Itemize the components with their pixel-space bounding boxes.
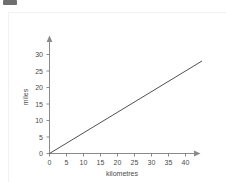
x-tick-label: 5 xyxy=(65,159,69,166)
y-tick-label: 25 xyxy=(35,68,43,75)
y-tick-label: 0 xyxy=(39,150,43,157)
y-tick-label: 30 xyxy=(35,51,43,58)
x-tick-label: 15 xyxy=(97,159,105,166)
conversion-graph: 0 5 10 15 20 25 30 0 5 10 15 20 25 30 35… xyxy=(0,0,226,182)
y-axis-title: miles xyxy=(22,88,29,105)
x-tick-label: 20 xyxy=(114,159,122,166)
y-tick-label: 10 xyxy=(35,117,43,124)
y-tick-label: 15 xyxy=(35,101,43,108)
x-tick-label: 30 xyxy=(148,159,156,166)
x-tick-labels: 0 5 10 15 20 25 30 35 40 xyxy=(48,159,190,166)
y-axis xyxy=(47,36,53,154)
y-tick-labels: 0 5 10 15 20 25 30 xyxy=(35,51,43,157)
screenshot-root: 0 5 10 15 20 25 30 0 5 10 15 20 25 30 35… xyxy=(0,0,226,182)
x-tick-label: 40 xyxy=(182,159,190,166)
x-tick-label: 0 xyxy=(48,159,52,166)
x-axis xyxy=(50,151,201,157)
y-tick-label: 5 xyxy=(39,134,43,141)
y-tick-label: 20 xyxy=(35,84,43,91)
x-axis-title: kilometres xyxy=(106,170,138,177)
conversion-line xyxy=(50,61,203,154)
x-tick-label: 35 xyxy=(165,159,173,166)
x-tick-label: 25 xyxy=(131,159,139,166)
x-tick-label: 10 xyxy=(80,159,88,166)
